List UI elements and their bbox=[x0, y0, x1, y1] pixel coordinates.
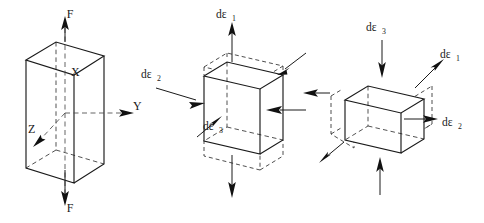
figure-root: F F X Y Z bbox=[0, 0, 484, 223]
strain-label-1-right: dε bbox=[440, 48, 451, 60]
strain-label-1-right-sub: 1 bbox=[456, 54, 460, 63]
strain-label-2-middle-sub: 2 bbox=[157, 74, 161, 83]
strain-label-3-right: dε bbox=[366, 21, 377, 33]
axis-label-y: Y bbox=[133, 99, 142, 113]
cube-mid-front-face bbox=[204, 76, 260, 154]
strain-label-3-right-sub: 3 bbox=[382, 27, 386, 36]
strain-label-2-right-sub: 2 bbox=[458, 122, 462, 131]
strain-label-2-middle: dε bbox=[141, 68, 152, 80]
strain-label-1-middle: dε bbox=[216, 8, 227, 20]
strain-label-3-middle: dε bbox=[203, 120, 214, 132]
axis-label-z: Z bbox=[28, 122, 35, 136]
strain-label-3-middle-sub: 3 bbox=[219, 126, 223, 135]
strain-label-2-right: dε bbox=[442, 116, 453, 128]
force-label-top: F bbox=[67, 7, 74, 21]
force-label-bottom: F bbox=[67, 201, 74, 215]
strain-diagram: F F X Y Z bbox=[0, 0, 484, 223]
axis-label-x: X bbox=[71, 65, 80, 79]
strain-label-1-middle-sub: 1 bbox=[232, 14, 236, 23]
